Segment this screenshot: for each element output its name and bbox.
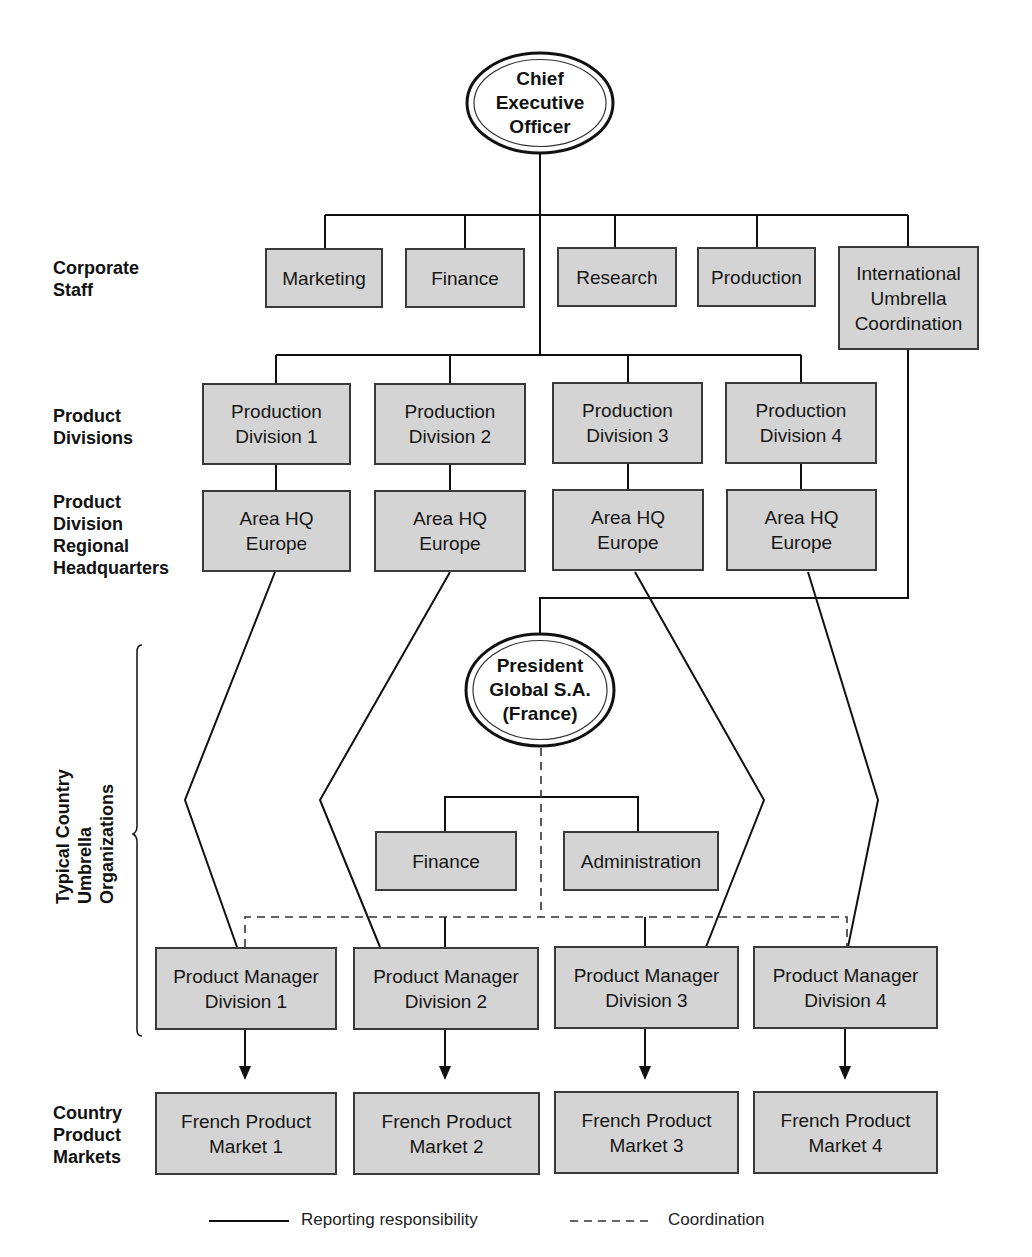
product-manager-division-2: Product Manager Division 2 bbox=[353, 947, 539, 1030]
row-label-regional-hq: Product Division Regional Headquarters bbox=[53, 491, 169, 579]
legend-coordination: Coordination bbox=[668, 1210, 764, 1230]
country-administration: Administration bbox=[563, 831, 719, 891]
french-product-market-3: French Product Market 3 bbox=[554, 1091, 739, 1174]
staff-production: Production bbox=[697, 247, 816, 307]
row-label-product-divisions: Product Divisions bbox=[53, 405, 133, 449]
country-finance: Finance bbox=[375, 831, 517, 891]
staff-finance: Finance bbox=[405, 248, 525, 308]
row-label-corporate-staff: Corporate Staff bbox=[53, 257, 139, 301]
product-manager-division-4: Product Manager Division 4 bbox=[753, 946, 938, 1029]
french-product-market-4: French Product Market 4 bbox=[753, 1091, 938, 1174]
area-hq-europe-3: Area HQ Europe bbox=[552, 489, 704, 571]
legend-reporting: Reporting responsibility bbox=[301, 1210, 478, 1230]
staff-research: Research bbox=[557, 247, 677, 307]
french-product-market-2: French Product Market 2 bbox=[353, 1092, 540, 1175]
row-label-country-markets: Country Product Markets bbox=[53, 1102, 122, 1168]
production-division-3: Production Division 3 bbox=[552, 382, 703, 464]
product-manager-division-1: Product Manager Division 1 bbox=[155, 947, 337, 1030]
ceo-node: Chief Executive Officer bbox=[467, 53, 613, 153]
area-hq-europe-4: Area HQ Europe bbox=[726, 489, 877, 571]
president-node: President Global S.A. (France) bbox=[466, 634, 614, 746]
area-hq-europe-2: Area HQ Europe bbox=[374, 490, 526, 572]
staff-international-umbrella: International Umbrella Coordination bbox=[838, 246, 979, 350]
production-division-1: Production Division 1 bbox=[202, 383, 351, 465]
area-hq-europe-1: Area HQ Europe bbox=[202, 490, 351, 572]
connector-lines bbox=[0, 0, 1032, 1257]
row-label-country-umbrella: Typical Country Umbrella Organizations bbox=[52, 769, 118, 904]
staff-marketing: Marketing bbox=[265, 248, 383, 308]
production-division-4: Production Division 4 bbox=[725, 382, 877, 464]
french-product-market-1: French Product Market 1 bbox=[155, 1092, 337, 1175]
product-manager-division-3: Product Manager Division 3 bbox=[554, 946, 739, 1029]
production-division-2: Production Division 2 bbox=[374, 383, 526, 465]
